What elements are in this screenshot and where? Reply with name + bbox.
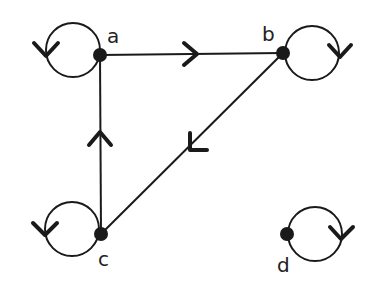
vertex-a: [93, 48, 107, 62]
vertex-label-b: b: [262, 22, 275, 46]
edge-a-to-b: [100, 53, 283, 55]
vertex-label-d: d: [277, 253, 290, 277]
vertex-label-a: a: [107, 24, 119, 48]
vertex-c: [94, 227, 108, 241]
directed-graph-diagram: a b c d: [0, 0, 374, 287]
vertex-b: [276, 46, 290, 60]
vertex-d: [280, 227, 294, 241]
edge-c-to-a: [100, 55, 101, 234]
arrowhead-b-to-c: [190, 133, 207, 150]
loop-arrowhead-b: [329, 45, 351, 57]
vertex-label-c: c: [98, 247, 109, 271]
loop-b: [285, 26, 339, 80]
